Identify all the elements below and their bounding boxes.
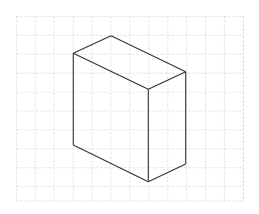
- box-edge: [73, 145, 148, 182]
- diagram-canvas: [0, 0, 259, 214]
- box-edge: [111, 36, 186, 72]
- box-edge: [73, 53, 148, 89]
- box-edge: [148, 164, 185, 182]
- box-edge: [148, 72, 185, 90]
